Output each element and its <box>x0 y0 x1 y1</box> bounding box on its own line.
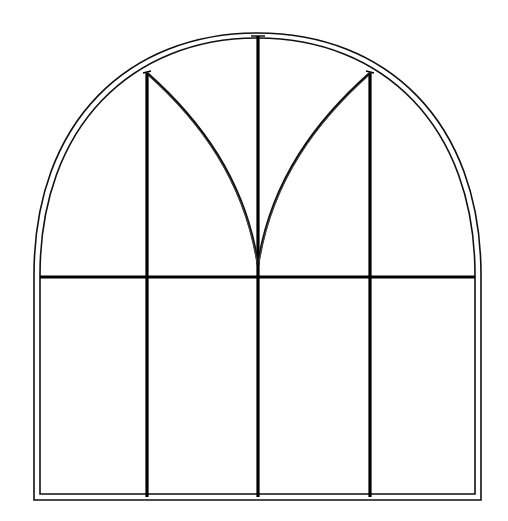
window-drawing: Arched Gothic window elevation <box>0 0 508 521</box>
background <box>0 0 508 521</box>
